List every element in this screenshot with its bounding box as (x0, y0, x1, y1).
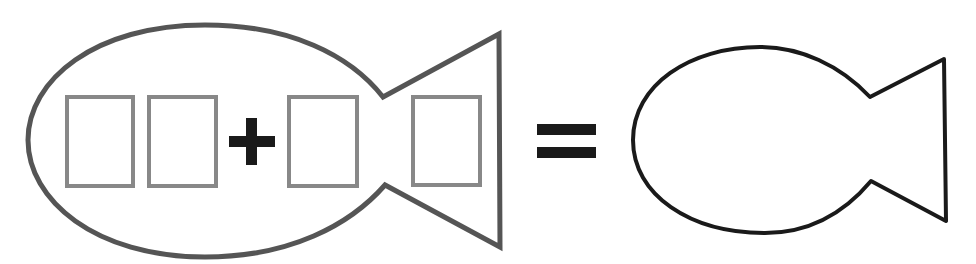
fish-equation-diagram: Fish addition puzzle + = Problem fish An… (0, 0, 976, 264)
digit-box-1[interactable] (67, 97, 133, 186)
digit-box-4[interactable] (413, 97, 480, 185)
digit-box-3[interactable] (289, 97, 357, 186)
right-fish-outline[interactable] (633, 47, 946, 233)
digit-box-2[interactable] (149, 97, 216, 186)
equals-icon (537, 124, 596, 158)
plus-icon (229, 118, 275, 165)
right-fish (633, 47, 946, 233)
left-fish (28, 25, 500, 257)
